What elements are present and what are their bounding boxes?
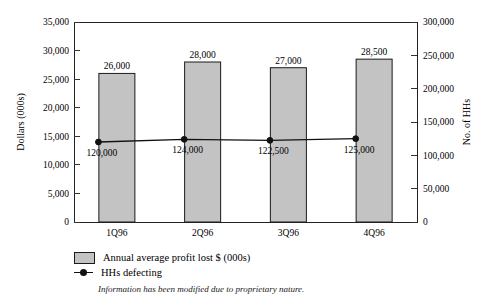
line-series xyxy=(98,139,355,142)
x-axis-tick-label: 3Q96 xyxy=(278,228,299,238)
y-axis-tick-label: 35,000 xyxy=(43,17,69,27)
y2-axis-tick-label: 300,000 xyxy=(423,17,454,27)
y-axis-tick-label: 20,000 xyxy=(43,103,69,113)
y2-axis-title: No. of HHs xyxy=(461,99,472,145)
x-axis-tick-label: 2Q96 xyxy=(192,228,213,238)
bar-value-label: 26,000 xyxy=(104,61,130,71)
line-value-label: 120,000 xyxy=(86,148,117,158)
chart-footnote: Information has been modified due to pro… xyxy=(98,284,304,294)
y-axis-tick-label: 0 xyxy=(64,217,69,227)
y-axis-tick-label: 15,000 xyxy=(43,132,69,142)
line-value-label: 122,500 xyxy=(258,146,289,156)
y-axis-tick-label: 5,000 xyxy=(48,189,70,199)
y-axis-tick-label: 10,000 xyxy=(43,160,69,170)
bar xyxy=(185,62,221,222)
x-axis-tick-label: 4Q96 xyxy=(364,228,385,238)
bar-value-label: 28,500 xyxy=(361,47,387,57)
bar-value-label: 27,000 xyxy=(275,56,301,66)
legend-item-bars: Annual average profit lost $ (000s) xyxy=(74,250,414,265)
y-axis-tick-label: 30,000 xyxy=(43,46,69,56)
bar-value-label: 28,000 xyxy=(190,50,216,60)
y2-axis-tick-label: 50,000 xyxy=(423,184,449,194)
legend-line-icon xyxy=(74,268,93,278)
y2-axis-tick-label: 200,000 xyxy=(423,84,454,94)
legend-item-line: HHs defecting xyxy=(74,265,414,280)
y-axis-tick-label: 25,000 xyxy=(43,75,69,85)
chart-container: 05,00010,00015,00020,00025,00030,00035,0… xyxy=(0,0,490,304)
chart-plot: 05,00010,00015,00020,00025,00030,00035,0… xyxy=(0,0,490,250)
legend-label-bars: Annual average profit lost $ (000s) xyxy=(103,252,250,263)
legend-label-line: HHs defecting xyxy=(101,267,162,278)
bar xyxy=(270,68,306,222)
y2-axis-tick-label: 150,000 xyxy=(423,117,454,127)
y2-axis-tick-label: 250,000 xyxy=(423,51,454,61)
line-marker xyxy=(181,136,187,142)
line-value-label: 125,000 xyxy=(344,145,375,155)
y2-axis-tick-label: 100,000 xyxy=(423,151,454,161)
bar xyxy=(356,59,392,222)
line-marker xyxy=(353,136,359,142)
chart-legend: Annual average profit lost $ (000s) HHs … xyxy=(74,250,414,280)
y-axis-title: Dollars (000s) xyxy=(15,93,27,151)
line-marker xyxy=(96,139,102,145)
line-value-label: 124,000 xyxy=(172,145,203,155)
x-axis-tick-label: 1Q96 xyxy=(106,228,127,238)
line-marker xyxy=(267,137,273,143)
legend-swatch-icon xyxy=(74,252,95,264)
y2-axis-tick-label: 0 xyxy=(423,217,428,227)
